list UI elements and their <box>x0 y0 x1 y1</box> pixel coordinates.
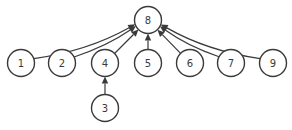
node-9: 9 <box>260 50 287 77</box>
node-4: 4 <box>92 50 119 77</box>
edge-line <box>115 34 134 53</box>
node-7: 7 <box>218 50 245 77</box>
node-6: 6 <box>177 50 204 77</box>
node-label: 1 <box>18 58 24 69</box>
node-label: 3 <box>102 103 108 114</box>
edge-line <box>162 35 180 54</box>
tree-diagram: 812456793 <box>0 0 292 130</box>
node-label: 4 <box>102 58 108 69</box>
edge-5-to-8 <box>145 34 151 50</box>
node-label: 8 <box>145 15 151 26</box>
node-8: 8 <box>135 7 162 34</box>
node-3: 3 <box>92 95 119 122</box>
arrowhead-icon <box>102 77 108 84</box>
node-label: 2 <box>59 58 65 69</box>
node-5: 5 <box>135 50 162 77</box>
node-2: 2 <box>49 50 76 77</box>
node-label: 9 <box>270 58 276 69</box>
node-1: 1 <box>8 50 35 77</box>
edge-3-to-4 <box>102 77 108 95</box>
node-label: 7 <box>228 58 234 69</box>
node-label: 5 <box>145 58 151 69</box>
nodes-layer: 812456793 <box>8 7 287 122</box>
arrowhead-icon <box>145 34 151 41</box>
node-label: 6 <box>187 58 193 69</box>
